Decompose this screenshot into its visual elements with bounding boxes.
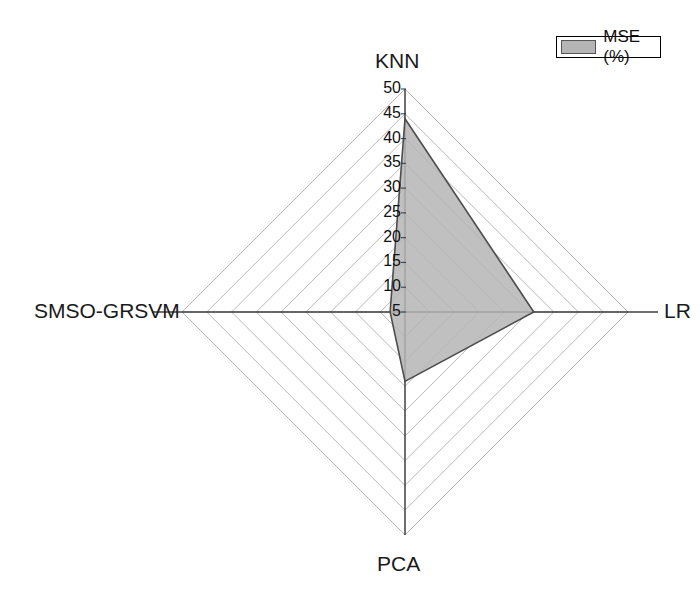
legend: MSE (%) xyxy=(556,36,661,58)
radial-tick-label: 35 xyxy=(365,153,401,171)
radial-tick-label: 30 xyxy=(365,178,401,196)
series-polygon-mse xyxy=(390,119,534,382)
axis-label-knn: KNN xyxy=(375,49,419,73)
radial-tick-label: 50 xyxy=(365,79,401,97)
radar-chart: KNN LR PCA SMSO-GRSVM 504540353025201510… xyxy=(0,0,700,609)
axis-label-pca: PCA xyxy=(377,552,420,576)
radial-tick-label: 40 xyxy=(365,129,401,147)
radial-tick-label: 5 xyxy=(365,302,401,320)
radial-tick-label: 25 xyxy=(365,203,401,221)
legend-label-mse: MSE (%) xyxy=(603,27,660,67)
radial-tick-label: 15 xyxy=(365,252,401,270)
axis-label-lr: LR xyxy=(664,299,691,323)
radial-tick-label: 45 xyxy=(365,104,401,122)
legend-swatch-mse xyxy=(561,40,596,54)
axis-label-smso-grsvm: SMSO-GRSVM xyxy=(34,299,180,323)
radial-tick-label: 20 xyxy=(365,228,401,246)
radial-tick-label: 10 xyxy=(365,277,401,295)
